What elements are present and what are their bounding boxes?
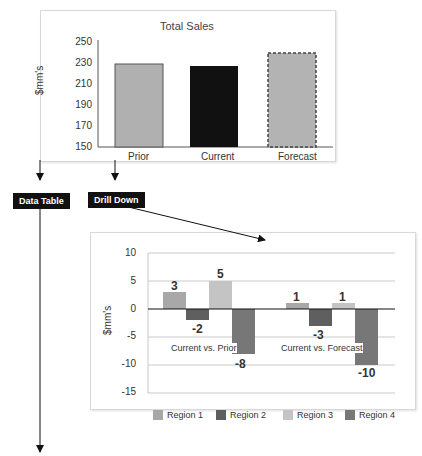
legend-region-1: Region 1 — [153, 410, 203, 420]
legend-swatch-icon — [153, 410, 163, 420]
value-label: -10 — [358, 366, 375, 380]
value-label: -8 — [235, 357, 246, 371]
value-label: 3 — [171, 279, 178, 293]
bar-current — [190, 66, 238, 147]
value-label: 5 — [217, 267, 224, 281]
value-label: 1 — [293, 290, 300, 304]
legend-region-2: Region 2 — [216, 410, 266, 420]
bar-forecast — [268, 53, 316, 147]
legend-swatch-icon — [283, 410, 293, 420]
legend-region-4: Region 4 — [345, 410, 395, 420]
legend-label: Region 1 — [167, 410, 203, 420]
group-label-current-vs-prior: Current vs. Prior — [171, 343, 237, 353]
legend-label: Region 3 — [297, 410, 333, 420]
legend-swatch-icon — [345, 410, 355, 420]
value-label: -3 — [313, 328, 324, 342]
chart-graphics — [0, 0, 422, 456]
group-label-current-vs-forecast: Current vs. Forecast — [281, 343, 363, 353]
legend-label: Region 2 — [230, 410, 266, 420]
data-table-button[interactable]: Data Table — [13, 193, 70, 209]
drill-down-button[interactable]: Drill Down — [88, 192, 145, 208]
value-label: 1 — [339, 290, 346, 304]
legend-region-3: Region 3 — [283, 410, 333, 420]
legend-swatch-icon — [216, 410, 226, 420]
legend-label: Region 4 — [359, 410, 395, 420]
value-label: -2 — [192, 322, 203, 336]
bar-prior — [115, 64, 163, 147]
